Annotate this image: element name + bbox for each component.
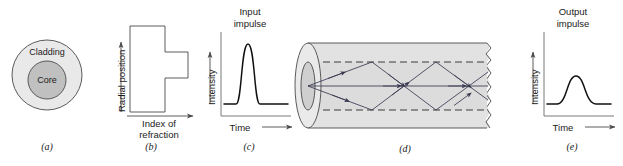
panel-label-e: (e) (537, 141, 607, 152)
fiber-cylinder-graphic (288, 0, 520, 145)
core-label: Core (7, 75, 87, 85)
intensity-axis-label: Intensity (206, 70, 217, 105)
panel-label-c: (c) (214, 141, 284, 152)
panel-label-b: (b) (112, 141, 190, 152)
panel-b-index-profile: Radial position Index of refraction (b) (100, 0, 200, 166)
index-of-refraction-axis-label-line2: refraction (120, 129, 198, 140)
time-axis-label: Time (218, 122, 262, 133)
input-impulse-plot (196, 0, 300, 130)
fiber-cross-section-graphic (0, 0, 100, 140)
panel-label-a: (a) (17, 141, 77, 152)
intensity-axis-label: Intensity (529, 70, 540, 105)
cladding-label: Cladding (7, 47, 87, 57)
panel-a-cross-section: Cladding Core (a) (0, 0, 100, 166)
figure-optical-fiber-dispersion: Cladding Core (a) Radial position Index … (0, 0, 623, 166)
index-of-refraction-axis-label-line1: Index of (120, 118, 198, 129)
output-pulse-curve (547, 76, 611, 104)
time-axis-label: Time (541, 122, 585, 133)
panel-e-output-impulse: Output impulse Intensity Time (e) (519, 0, 623, 166)
panel-c-input-impulse: Input impulse Intensity Time (c) (196, 0, 300, 166)
panel-label-d: (d) (370, 143, 440, 154)
output-impulse-plot (519, 0, 623, 130)
index-profile-graphic (100, 0, 200, 130)
radial-position-axis-label: Radial position (116, 50, 127, 112)
step-index-shape (130, 26, 188, 112)
input-pulse-curve (224, 44, 288, 104)
panel-d-fiber-raypaths: (d) (288, 0, 520, 166)
